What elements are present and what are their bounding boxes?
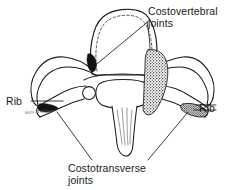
anatomical-illustration: Costovertebral joints Costotransverse jo… (0, 0, 232, 190)
costovertebral-joint-marking-right (143, 49, 168, 114)
label-costovertebral-joints: Costovertebral joints (148, 6, 218, 29)
leader-costotransverse-left (57, 112, 92, 160)
label-rib-right: Rib (199, 103, 215, 115)
leader-costotransverse-right (148, 112, 188, 160)
superior-articular-facet-left (83, 87, 96, 100)
spinous-process (112, 106, 137, 156)
label-rib-left: Rib (6, 96, 22, 108)
label-costotransverse-joints: Costotransverse joints (68, 163, 146, 186)
